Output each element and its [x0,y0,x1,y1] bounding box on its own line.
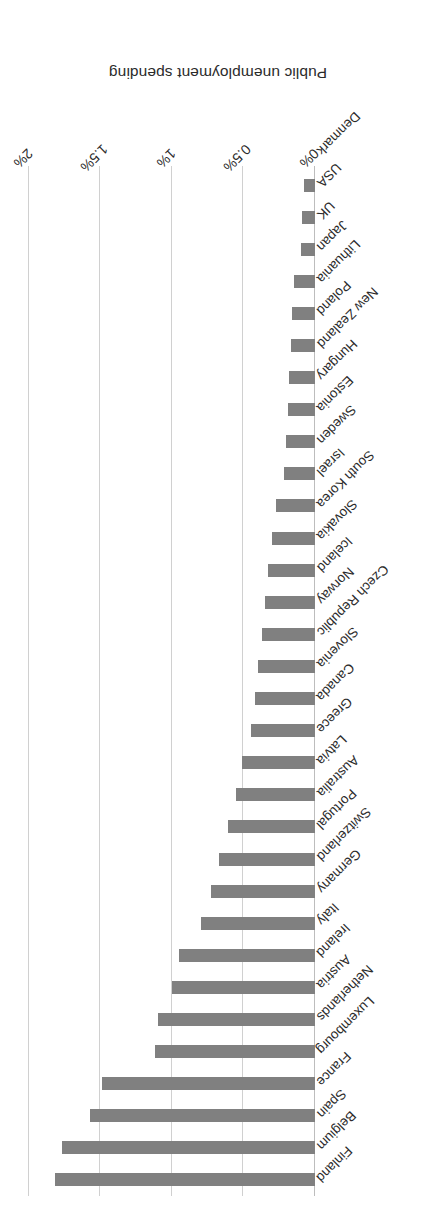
bar-row [29,939,315,971]
bar[interactable] [62,1141,315,1154]
bar[interactable] [228,820,315,833]
bar-row [29,329,315,361]
category-tick: Switzerland [315,843,436,875]
category-tick: Lithuania [315,265,436,297]
bar[interactable] [102,1077,315,1090]
bar[interactable] [276,499,315,512]
bar[interactable] [301,243,315,256]
category-tick: France [315,1068,436,1100]
bar[interactable] [292,307,315,320]
bar[interactable] [294,275,315,288]
bar-row [29,554,315,586]
bar-row [29,458,315,490]
bar-row [29,618,315,650]
category-tick: Latvia [315,747,436,779]
value-axis-title: Public unemployment spending [0,64,436,82]
bar-row [29,747,315,779]
category-tick: Canada [315,683,436,715]
bar[interactable] [258,660,315,673]
bar[interactable] [155,1045,315,1058]
chart-canvas: FinlandBelgiumSpainFranceLuxembourgNethe… [0,0,436,1232]
bar[interactable] [255,692,315,705]
bar-chart: FinlandBelgiumSpainFranceLuxembourgNethe… [0,0,436,1232]
bar-row [29,265,315,297]
category-tick: Australia [315,779,436,811]
category-tick: Poland [315,297,436,329]
bar-row [29,650,315,682]
bar-row [29,715,315,747]
category-tick: Finland [315,1164,436,1196]
category-tick: Germany [315,875,436,907]
bar-row [29,971,315,1003]
bar[interactable] [219,853,315,866]
bar-series [29,166,315,1196]
category-tick: Hungary [315,362,436,394]
bar-row [29,426,315,458]
bar[interactable] [172,981,315,994]
category-tick: Estonia [315,394,436,426]
category-tick: Slovenia [315,650,436,682]
bar[interactable] [179,949,315,962]
bar-row [29,1068,315,1100]
bar[interactable] [272,532,315,545]
bar-row [29,201,315,233]
bar[interactable] [286,435,315,448]
category-tick: New Zealand [315,329,436,361]
bar[interactable] [55,1173,315,1186]
category-tick: Norway [315,586,436,618]
category-tick: Slovakia [315,522,436,554]
bar[interactable] [201,917,315,930]
bar-row [29,1164,315,1196]
bar[interactable] [268,564,315,577]
category-tick: Belgium [315,1132,436,1164]
bar[interactable] [265,596,315,609]
bar-row [29,362,315,394]
bar[interactable] [291,339,315,352]
bar[interactable] [236,788,315,801]
bar[interactable] [284,467,315,480]
category-tick: USA [315,169,436,201]
category-tick: Ireland [315,939,436,971]
bar[interactable] [91,1109,316,1122]
bar[interactable] [242,756,315,769]
bar-row [29,843,315,875]
category-tick: Luxembourg [315,1036,436,1068]
category-tick: Japan [315,233,436,265]
category-tick: Austria [315,971,436,1003]
bar-row [29,490,315,522]
category-tick: Czech Republic [315,618,436,650]
category-tick: Italy [315,907,436,939]
bar-row [29,1003,315,1035]
category-tick: Netherlands [315,1003,436,1035]
category-tick: Israel [315,458,436,490]
bar-row [29,1100,315,1132]
plot-area [29,166,315,1196]
bar-row [29,394,315,426]
category-tick: Greece [315,715,436,747]
bar-row [29,683,315,715]
bar-row [29,811,315,843]
category-label: UK [314,199,338,223]
bar-row [29,875,315,907]
bar[interactable] [211,885,315,898]
bar-row [29,297,315,329]
bar-row [29,169,315,201]
bar-row [29,1036,315,1068]
bar[interactable] [262,628,315,641]
bar[interactable] [251,724,315,737]
category-tick: Portugal [315,811,436,843]
value-axis-labels: 0%0.5%1%1.5%2% [29,96,315,166]
bar-row [29,522,315,554]
bar[interactable] [302,211,315,224]
bar[interactable] [158,1013,315,1026]
category-label: Denmark [314,109,363,158]
rotated-figure-wrapper: FinlandBelgiumSpainFranceLuxembourgNethe… [0,0,436,1232]
bar[interactable] [289,371,315,384]
bar-row [29,779,315,811]
category-tick: Sweden [315,426,436,458]
bar[interactable] [304,179,315,192]
category-tick: UK [315,201,436,233]
bar-row [29,233,315,265]
bar-row [29,1132,315,1164]
bar[interactable] [288,403,315,416]
